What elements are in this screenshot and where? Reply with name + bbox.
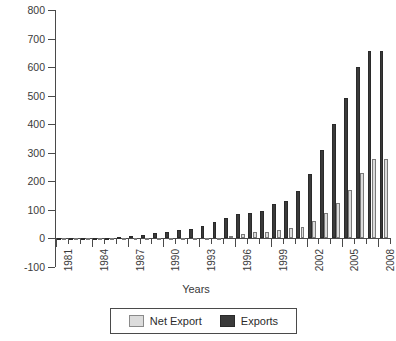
x-axis-tick — [307, 238, 308, 247]
y-axis-tick-label: 500 — [0, 91, 45, 101]
x-axis-tick — [342, 238, 343, 247]
y-axis-tick-label: 700 — [0, 34, 45, 44]
x-axis-tick — [295, 238, 296, 244]
x-axis-tick — [330, 238, 331, 244]
bar-exports — [380, 51, 384, 238]
bar-net-export — [86, 238, 90, 240]
x-axis-tick — [283, 238, 284, 244]
bar-net-export — [241, 234, 245, 238]
bar-net-export — [384, 159, 388, 238]
net-export-swatch — [129, 315, 144, 327]
bar-net-export — [312, 221, 316, 238]
x-axis-tick-label: 2002 — [315, 249, 325, 271]
x-axis-tick — [68, 238, 69, 244]
bar-net-export — [360, 173, 364, 239]
y-axis-tick — [48, 181, 55, 182]
bar-exports — [177, 230, 181, 238]
bar-net-export — [253, 232, 257, 238]
bar-exports — [224, 218, 228, 238]
y-axis-tick-label: 800 — [0, 5, 45, 15]
x-axis-tick — [80, 238, 81, 244]
bar-exports — [93, 238, 97, 240]
bar-exports — [141, 235, 145, 239]
plot-area — [56, 10, 390, 267]
bar-net-export — [336, 203, 340, 238]
x-axis-tick — [128, 238, 129, 247]
x-axis-tick — [56, 238, 57, 247]
bar-net-export — [134, 238, 138, 240]
bar-exports — [105, 238, 109, 240]
x-axis-tick-label: 1984 — [100, 249, 110, 271]
y-axis-tick — [48, 267, 55, 268]
x-axis-tick — [259, 238, 260, 244]
bar-exports — [272, 204, 276, 239]
bar-net-export — [98, 238, 102, 240]
x-axis-tick-label: 2008 — [386, 249, 396, 271]
x-axis-tick — [366, 238, 367, 244]
bar-net-export — [74, 238, 78, 240]
bar-net-export — [324, 213, 328, 238]
bar-exports — [57, 238, 61, 240]
x-axis-tick — [211, 238, 212, 244]
y-axis-tick — [48, 39, 55, 40]
x-axis-tick — [223, 238, 224, 244]
x-axis-tick — [235, 238, 236, 247]
bar-net-export — [169, 238, 173, 240]
bar-exports — [296, 191, 300, 238]
bar-exports — [308, 174, 312, 239]
bar-exports — [81, 238, 85, 240]
y-axis-tick — [48, 238, 55, 239]
y-axis-tick-label: 0 — [0, 233, 45, 243]
x-axis-tick — [140, 238, 141, 244]
x-axis-tick — [175, 238, 176, 244]
y-axis-tick — [48, 153, 55, 154]
x-axis-tick — [354, 238, 355, 244]
legend-item-exports: Exports — [220, 315, 278, 327]
bar-net-export — [265, 232, 269, 238]
bar-net-export — [277, 230, 281, 238]
y-axis-tick — [48, 67, 55, 68]
x-axis-tick — [271, 238, 272, 247]
bar-exports — [284, 201, 288, 239]
bar-net-export — [193, 238, 197, 240]
bar-exports — [344, 98, 348, 238]
x-axis-tick — [116, 238, 117, 244]
x-axis-tick — [318, 238, 319, 244]
x-axis-tick — [92, 238, 93, 247]
x-axis-tick-label: 1999 — [279, 249, 289, 271]
bar-exports — [320, 150, 324, 239]
y-axis-tick-label: 200 — [0, 176, 45, 186]
bar-net-export — [181, 238, 185, 240]
bar-exports — [129, 236, 133, 238]
y-axis-tick — [48, 210, 55, 211]
legend-item-net-export: Net Export — [129, 315, 202, 327]
y-axis-tick — [48, 96, 55, 97]
bar-exports — [260, 211, 264, 238]
x-axis-tick — [390, 238, 391, 244]
x-axis-tick — [378, 238, 379, 247]
x-axis-tick-label: 1987 — [136, 249, 146, 271]
x-axis-tick-label: 1990 — [171, 249, 181, 271]
bar-net-export — [229, 236, 233, 239]
x-axis-tick — [199, 238, 200, 247]
y-axis-tick-label: 300 — [0, 148, 45, 158]
x-axis-title: Years — [0, 283, 392, 295]
x-axis-tick-label: 1993 — [207, 249, 217, 271]
bar-exports — [165, 232, 169, 238]
bar-net-export — [62, 238, 66, 240]
bar-exports — [213, 222, 217, 239]
bar-exports — [189, 229, 193, 238]
bar-net-export — [157, 238, 161, 240]
legend-label-net-export: Net Export — [150, 315, 202, 327]
y-axis-tick-label: -100 — [0, 262, 45, 272]
chart-legend: Net Export Exports — [110, 308, 297, 334]
bar-exports — [248, 213, 252, 238]
legend-label-exports: Exports — [241, 315, 278, 327]
x-axis-tick-label: 1996 — [243, 249, 253, 271]
bar-net-export — [122, 238, 126, 240]
bar-net-export — [217, 238, 221, 240]
y-axis-tick-label: 600 — [0, 62, 45, 72]
bar-net-export — [205, 238, 209, 240]
bar-exports — [201, 226, 205, 239]
